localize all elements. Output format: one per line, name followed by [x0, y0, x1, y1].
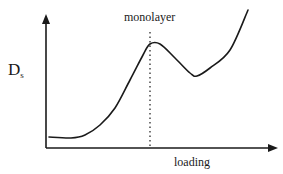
y-axis-arrow-icon [42, 14, 50, 24]
ds-curve [49, 10, 248, 138]
diagram-canvas [0, 0, 283, 174]
y-axis-label-subscript: s [20, 70, 24, 80]
x-axis-arrow-icon [268, 144, 278, 152]
x-axis-label: loading [174, 155, 210, 170]
y-axis-label: Ds [8, 60, 24, 80]
monolayer-label: monolayer [124, 10, 175, 25]
y-axis-label-main: D [8, 60, 20, 79]
diffusivity-loading-diagram: Ds monolayer loading [0, 0, 283, 174]
